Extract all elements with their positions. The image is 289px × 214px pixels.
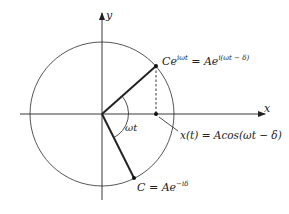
projection-point [154, 112, 158, 116]
projection-label: x(t) = Acos(ωt − δ) [180, 129, 282, 141]
initial-point-label: C = Ae−iδ [137, 180, 188, 194]
angle-label: ωt [125, 122, 138, 133]
rotating-point-label: Ceiωt = Aei(ωt − δ) [162, 54, 249, 68]
initial-point [132, 176, 136, 180]
rotating-point [154, 64, 158, 68]
y-axis-label: y [105, 9, 113, 22]
x-axis-label: x [264, 102, 271, 115]
projection-pointer [159, 117, 178, 131]
phasor-diagram: y x ωt Ceiωt = Aei(ωt − δ) x(t) = Acos(ω… [0, 0, 289, 214]
rotating-phasor [102, 66, 156, 114]
